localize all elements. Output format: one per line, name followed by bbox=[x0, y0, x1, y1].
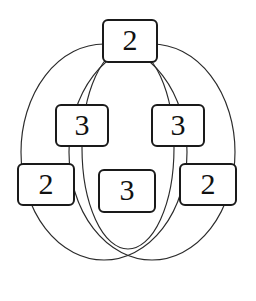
node-box-bottom-center[interactable]: 3 bbox=[98, 169, 156, 213]
left-circle bbox=[21, 44, 187, 260]
node-label-bottom-left: 2 bbox=[39, 169, 54, 199]
diagram-canvas: 2 3 3 2 3 2 bbox=[0, 0, 256, 301]
center-oval bbox=[82, 47, 174, 249]
node-box-bottom-left[interactable]: 2 bbox=[17, 163, 75, 206]
node-label-mid-left: 3 bbox=[75, 110, 90, 140]
node-box-mid-right[interactable]: 3 bbox=[151, 104, 205, 147]
node-label-mid-right: 3 bbox=[171, 110, 186, 140]
node-label-bottom-right: 2 bbox=[201, 169, 216, 199]
node-label-top: 2 bbox=[123, 25, 138, 55]
node-box-bottom-right[interactable]: 2 bbox=[179, 163, 237, 206]
right-circle bbox=[69, 44, 235, 260]
node-box-top[interactable]: 2 bbox=[102, 19, 158, 63]
node-box-mid-left[interactable]: 3 bbox=[55, 104, 109, 147]
node-label-bottom-center: 3 bbox=[120, 175, 135, 205]
